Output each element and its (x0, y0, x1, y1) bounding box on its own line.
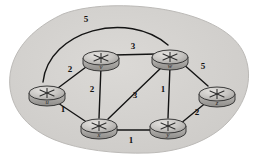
edge-weight-w-z: 5 (201, 61, 206, 71)
edge-weight-v-x: 2 (90, 84, 95, 94)
node-label-v: v (100, 63, 103, 70)
node-w[interactable]: w (152, 50, 188, 70)
node-z[interactable]: z (199, 87, 235, 107)
node-u[interactable]: u (29, 86, 65, 106)
node-label-x: x (97, 131, 101, 138)
edge-weight-u-w: 5 (84, 14, 89, 24)
node-x[interactable]: x (81, 119, 117, 139)
node-label-w: w (168, 62, 173, 69)
edge-weight-v-w: 3 (131, 41, 136, 51)
network-diagram: u v (0, 0, 263, 157)
edge-weight-x-y: 1 (129, 135, 134, 145)
edge-weight-w-y: 1 (161, 84, 166, 94)
edge-weight-y-z: 2 (195, 107, 200, 117)
edge-weight-u-v: 2 (68, 64, 73, 74)
edge-weight-u-x: 1 (61, 104, 66, 114)
network-graph-svg: u v (0, 0, 263, 157)
node-v[interactable]: v (83, 51, 119, 71)
edge-weight-w-x: 3 (133, 90, 138, 100)
node-y[interactable]: y (150, 119, 186, 139)
edge-v-w (114, 54, 157, 55)
node-label-z: z (215, 99, 219, 106)
node-label-y: y (166, 131, 170, 138)
